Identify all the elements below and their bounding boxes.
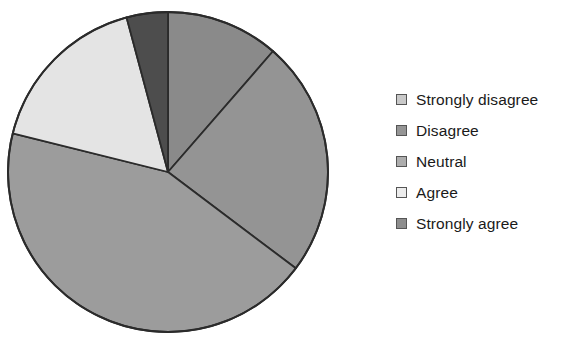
legend-label-strongly-disagree: Strongly disagree [416, 92, 538, 108]
pie-chart-figure: Strongly disagree Disagree Neutral Agree… [0, 0, 580, 342]
legend-item-strongly-agree[interactable]: Strongly agree [396, 208, 580, 239]
legend-label-agree: Agree [416, 185, 458, 201]
legend-item-neutral[interactable]: Neutral [396, 146, 580, 177]
legend-label-disagree: Disagree [416, 123, 479, 139]
legend-swatch-disagree [396, 125, 407, 136]
legend-label-strongly-agree: Strongly agree [416, 216, 518, 232]
legend-swatch-strongly-disagree [396, 94, 407, 105]
pie-svg [0, 0, 350, 342]
legend-swatch-agree [396, 187, 407, 198]
legend-item-agree[interactable]: Agree [396, 177, 580, 208]
pie-slice-group [8, 12, 328, 332]
pie-plot-area [0, 0, 350, 342]
legend-item-disagree[interactable]: Disagree [396, 115, 580, 146]
legend-label-neutral: Neutral [416, 154, 467, 170]
legend-item-strongly-disagree[interactable]: Strongly disagree [396, 84, 580, 115]
chart-legend: Strongly disagree Disagree Neutral Agree… [396, 84, 580, 239]
legend-swatch-strongly-agree [396, 218, 407, 229]
legend-swatch-neutral [396, 156, 407, 167]
